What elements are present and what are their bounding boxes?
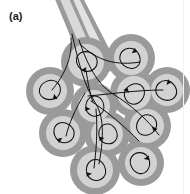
acinar-cell-left-lower-cytoplasm (46, 116, 80, 150)
right-edge-rule (183, 0, 184, 194)
figure-panel-a: (a) (0, 0, 190, 194)
acinus-diagram (0, 0, 190, 194)
acinar-cell-right-middle-cytoplasm (130, 109, 164, 143)
acinar-cell-left-upper-cytoplasm (33, 74, 67, 108)
panel-label: (a) (9, 10, 22, 22)
acinar-cell-top-right-cytoplasm (114, 41, 148, 75)
